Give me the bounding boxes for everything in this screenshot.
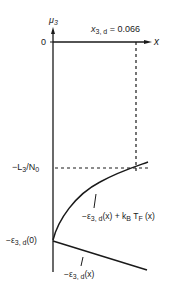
upper-curve	[53, 162, 148, 240]
lower-line	[53, 241, 147, 270]
intercept-label: −ε3, d(0)	[6, 236, 37, 246]
lower-leader	[81, 257, 83, 266]
x-axis-label: x	[154, 37, 159, 47]
x-axis-arrow-icon	[144, 40, 152, 44]
lower-line-label: −ε3, d(x)	[64, 270, 94, 280]
upper-curve-label: −ε3, d(x) + kB TF (x)	[82, 212, 155, 222]
y-axis-arrow-icon	[51, 27, 55, 34]
level-label: −L3/N0	[12, 163, 39, 173]
y-axis-label: μ3	[49, 16, 58, 26]
x-marker-label: x3, d = 0.066	[91, 25, 140, 35]
zero-tick-label: 0	[41, 38, 46, 47]
upper-leader	[94, 194, 96, 208]
